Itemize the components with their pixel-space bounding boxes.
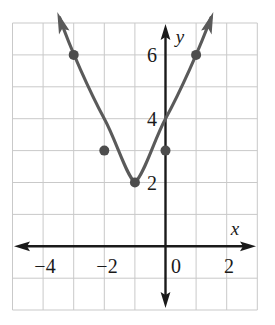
y-axis-label: y: [174, 26, 185, 47]
axis-name-labels: x y: [174, 26, 240, 239]
x-tick-label-2: 2: [224, 255, 234, 277]
y-tick-label-2: 2: [147, 172, 157, 194]
data-point: [191, 50, 201, 60]
x-tick-label-neg2: −2: [96, 255, 117, 277]
x-axis-label: x: [230, 218, 240, 239]
parabola-graph-figure: −4 −2 0 2 2 4 6 x y: [0, 0, 275, 325]
x-tick-label-0: 0: [171, 255, 181, 277]
data-point: [69, 50, 79, 60]
data-point: [161, 146, 171, 156]
y-tick-label-4: 4: [147, 108, 157, 130]
tick-labels: −4 −2 0 2 2 4 6: [34, 44, 234, 277]
y-tick-label-6: 6: [147, 44, 157, 66]
data-point: [130, 178, 140, 188]
coordinate-plane-svg: −4 −2 0 2 2 4 6 x y: [0, 0, 275, 325]
data-point: [99, 146, 109, 156]
x-tick-label-neg4: −4: [34, 255, 55, 277]
